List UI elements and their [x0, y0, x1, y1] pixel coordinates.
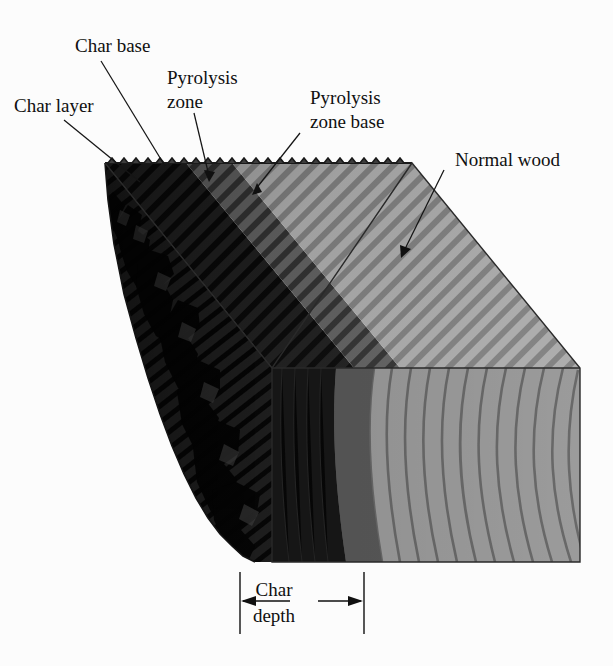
- label-pyrolysis-zone-base-line2: zone base: [310, 111, 384, 132]
- label-pyrolysis-zone-line1: Pyrolysis: [167, 67, 238, 88]
- label-char-depth-line2: depth: [253, 605, 296, 626]
- diagram-svg: Char layer Char base Pyrolysis zone Pyro…: [0, 0, 613, 666]
- label-pyrolysis-zone-base-line1: Pyrolysis: [310, 87, 381, 108]
- label-normal-wood: Normal wood: [455, 149, 561, 170]
- label-pyrolysis-zone-line2: zone: [167, 91, 203, 112]
- block-front-face: [272, 368, 585, 562]
- label-char-layer: Char layer: [14, 95, 94, 116]
- label-char-base: Char base: [75, 35, 150, 56]
- char-depth-figure: Char layer Char base Pyrolysis zone Pyro…: [0, 0, 613, 666]
- label-char-depth-line1: Char: [256, 579, 294, 600]
- front-face-shading: [272, 368, 580, 562]
